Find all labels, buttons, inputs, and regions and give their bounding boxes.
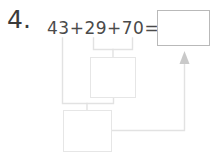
equation-expression: 43+29+70= [47, 20, 159, 37]
bracket-29-plus-70-icon [94, 38, 133, 57]
worksheet-problem: 4. 43+29+70= [0, 0, 222, 157]
partial-sum-box[interactable] [90, 57, 136, 98]
total-sum-box[interactable] [63, 110, 112, 152]
problem-number: 4. [7, 7, 31, 32]
answer-box[interactable] [157, 10, 210, 46]
